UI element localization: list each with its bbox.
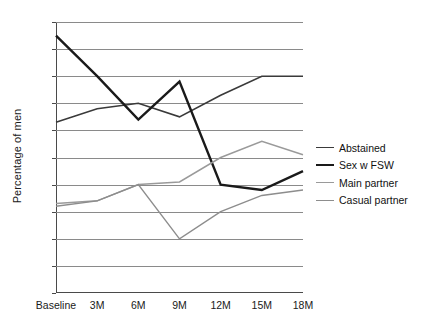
series-line [56, 36, 303, 190]
legend-label: Casual partner [339, 194, 408, 206]
legend-swatch [316, 200, 334, 201]
legend-item: Casual partner [316, 192, 420, 210]
x-tick-label: Baseline [36, 299, 76, 311]
series-line [56, 185, 303, 239]
legend-label: Main partner [339, 177, 398, 189]
legend-label: Sex w FSW [339, 159, 394, 171]
x-tick-label: 3M [90, 299, 105, 311]
x-tick-label: 15M [252, 299, 272, 311]
x-tick-label: 9M [172, 299, 187, 311]
x-tick-label: 18M [293, 299, 313, 311]
legend-item: Sex w FSW [316, 157, 420, 175]
series-lines [56, 22, 303, 293]
x-tick-label: 6M [131, 299, 146, 311]
legend-swatch [316, 182, 334, 183]
legend-swatch [316, 164, 334, 166]
legend-swatch [316, 147, 334, 148]
y-axis-title: Percentage of men [11, 56, 23, 256]
x-tick-label: 12M [210, 299, 230, 311]
line-chart: Percentage of men 05101520253035404550 B… [0, 0, 422, 332]
y-tick-mark [52, 293, 56, 294]
legend-label: Abstained [339, 142, 386, 154]
plot-wrap: 05101520253035404550 Baseline3M6M9M12M15… [56, 22, 303, 293]
legend: AbstainedSex w FSWMain partnerCasual par… [316, 139, 420, 209]
legend-item: Abstained [316, 139, 420, 157]
legend-item: Main partner [316, 174, 420, 192]
